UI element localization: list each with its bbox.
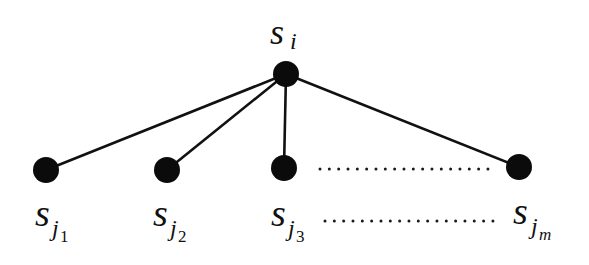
label-sjm-main: s <box>513 190 528 232</box>
label-sj1: s j 1 <box>35 192 69 246</box>
label-sj1-main: s <box>35 192 50 234</box>
node-si <box>273 61 299 87</box>
label-sj2-subsub: 2 <box>178 227 187 246</box>
label-sj2-main: s <box>153 192 168 234</box>
label-si-sub: i <box>290 28 297 54</box>
label-sj2-sub: j <box>167 215 177 241</box>
node-sjm <box>506 154 532 180</box>
label-sjm-subsub: m <box>539 225 551 244</box>
label-sj2: s j 2 <box>153 192 187 246</box>
edge-si-sjm <box>286 74 519 167</box>
label-si-main: s <box>270 12 284 52</box>
label-sj3-main: s <box>271 192 286 234</box>
node-sj3 <box>271 155 297 181</box>
label-sj3-subsub: 3 <box>296 227 305 246</box>
edge-si-sj3 <box>284 74 286 168</box>
label-sj3-sub: j <box>285 215 295 241</box>
label-sj1-subsub: 1 <box>60 227 69 246</box>
edge-si-sj1 <box>46 74 286 170</box>
node-sj2 <box>154 157 180 183</box>
nodes <box>33 61 532 183</box>
label-si: s i <box>270 12 297 54</box>
label-sjm-sub: j <box>528 213 538 239</box>
node-sj1 <box>33 157 59 183</box>
label-sjm: s j m <box>513 190 551 244</box>
label-sj1-sub: j <box>49 215 59 241</box>
tree-diagram: s i s j 1 s j 2 s j 3 s j m <box>0 0 589 265</box>
label-sj3: s j 3 <box>271 192 305 246</box>
edge-si-sj2 <box>167 74 286 170</box>
